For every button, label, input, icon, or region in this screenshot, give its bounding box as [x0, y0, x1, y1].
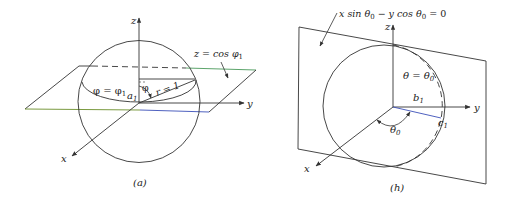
horizontal-plane [25, 66, 256, 112]
dashed-circle [393, 45, 442, 167]
plane-equation-label-b: x sin θ0 − y cos θ0 = 0 [339, 8, 446, 21]
y-axis-label: y [246, 98, 253, 109]
x-axis-label-b: x [304, 163, 310, 174]
point-a1-label: a1 [127, 90, 137, 103]
x-axis-b [316, 107, 393, 166]
phi-angle-label: φ [142, 82, 149, 93]
c1-label: c1 [438, 117, 448, 130]
z-axis-label: z [130, 15, 137, 26]
vertical-plane [298, 27, 486, 184]
x-axis-label: x [61, 153, 67, 164]
figure-b: x sin θ0 − y cos θ0 = 0 z y x θ = θ0 b1 … [298, 8, 486, 193]
y-axis-label-b: y [473, 102, 480, 113]
plane-pointer [221, 62, 228, 78]
plane-equation-label: z = cos φ1 [193, 48, 243, 61]
radius-line-b [393, 107, 441, 118]
meridian-label: θ = θ0 [403, 70, 435, 83]
plane-pointer-b [320, 13, 337, 46]
z-axis-label-b: z [384, 21, 391, 32]
figure-a: z y x z = cos φ1 φ = φ1 a1 φ r = 1 (a) [25, 15, 256, 188]
x-axis [72, 103, 139, 156]
b1-label: b1 [413, 92, 424, 105]
figure-canvas: z y x z = cos φ1 φ = φ1 a1 φ r = 1 (a) x… [0, 0, 510, 202]
caption-a: (a) [133, 177, 147, 188]
meridian-circle [323, 45, 445, 167]
caption-b: (h) [390, 182, 404, 193]
radius-label: r = 1 [154, 79, 181, 98]
theta0-label: θ0 [390, 124, 401, 137]
